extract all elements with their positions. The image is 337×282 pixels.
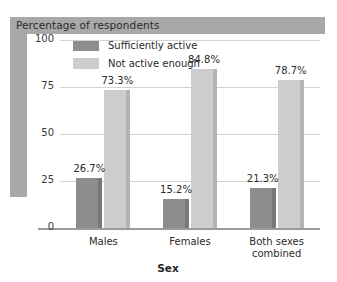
bar [278, 80, 304, 228]
bar-side-shadow [126, 90, 130, 228]
x-axis-category-label: Females [169, 236, 210, 248]
chart-container: Percentage of respondents Sufficiently a… [0, 0, 337, 282]
y-axis-tick-label: 25 [20, 174, 54, 185]
bar [250, 188, 276, 228]
x-axis-line [38, 228, 320, 230]
bar-value-label: 73.3% [101, 75, 133, 86]
bar-value-label: 15.2% [160, 184, 192, 195]
bar [163, 199, 189, 228]
y-axis-tick-label: 100 [20, 33, 54, 44]
bar-face [278, 80, 300, 228]
y-axis-tick-label: 50 [20, 127, 54, 138]
bar-side-shadow [185, 199, 189, 228]
bar-value-label: 78.7% [275, 65, 307, 76]
bar-side-shadow [272, 188, 276, 228]
bar-face [104, 90, 126, 228]
bar-side-shadow [300, 80, 304, 228]
x-axis-title: Sex [157, 262, 178, 274]
bar-side-shadow [98, 178, 102, 228]
bar-face [250, 188, 272, 228]
bar-value-label: 84.8% [188, 54, 220, 65]
bar [104, 90, 130, 228]
bar [191, 69, 217, 228]
y-axis-tick-label: 0 [20, 221, 54, 232]
bar-value-label: 21.3% [247, 173, 279, 184]
bar-face [76, 178, 98, 228]
chart-title: Percentage of respondents [16, 18, 160, 33]
bar-face [163, 199, 185, 228]
x-axis-category-label: Males [89, 236, 118, 248]
x-axis-category-label: Both sexes combined [249, 236, 304, 260]
bar-value-label: 26.7% [73, 163, 105, 174]
y-axis-tick-label: 75 [20, 80, 54, 91]
bar-side-shadow [213, 69, 217, 228]
gridline [60, 40, 320, 41]
bar [76, 178, 102, 228]
bar-face [191, 69, 213, 228]
left-accent-band [10, 34, 27, 197]
